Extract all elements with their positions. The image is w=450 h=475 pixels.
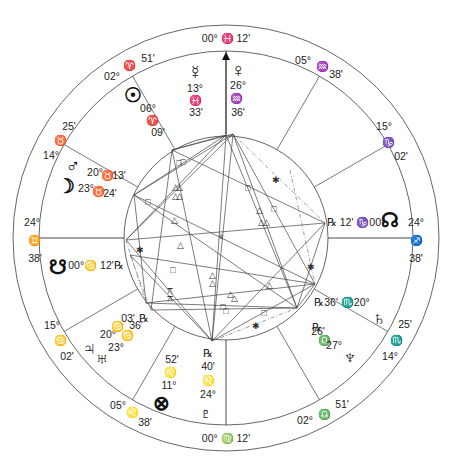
sextile-aspect-icon: ✱	[272, 176, 280, 185]
cusp-label-cusp1-deg: 24°	[408, 217, 424, 228]
square-aspect-icon: □	[245, 184, 250, 193]
trine-aspect-icon: △	[209, 279, 216, 288]
aspect-line	[297, 284, 315, 308]
cusp-label-cusp6-deg: 15°	[44, 320, 60, 331]
cusp-label-cusp11-min: 38'	[329, 69, 343, 80]
square-aspect-icon: □	[145, 198, 150, 207]
cusp-label-mc: 00° ♓ 12'	[202, 33, 250, 44]
square-aspect-icon: □	[180, 158, 185, 167]
mercury-position-label: 13°	[187, 83, 203, 94]
square-aspect-icon: □	[271, 205, 276, 214]
pluto-icon: ♇	[199, 403, 214, 423]
venus-position-label: 36'	[231, 107, 245, 118]
cusp-label-cusp6-min: 02'	[60, 351, 74, 362]
trine-aspect-icon: △	[263, 218, 270, 227]
south-node-icon: ☋	[49, 257, 67, 277]
neptune-position-label: 27°	[326, 340, 342, 351]
cusp-label-cusp3-deg: 02°	[297, 415, 313, 426]
cusp-label-cusp8-deg: 14°	[43, 150, 59, 161]
cusp-label-cusp8-min: 25'	[62, 121, 76, 132]
cusp-label-cusp1-min: 38'	[409, 253, 423, 264]
cusp-label-cusp3-sign: ♎	[318, 409, 331, 420]
venus-position-label: ♒	[230, 93, 243, 104]
center-marker-icon: ♆	[217, 232, 225, 242]
cusp-label-cusp7-min: 38'	[28, 253, 42, 264]
uranus-position-label: 23°	[108, 342, 124, 353]
quincunx-aspect-icon: ⚻	[167, 295, 173, 304]
pluto-position-label: ℞	[203, 348, 213, 359]
part-of-fortune-position-label: ♌	[164, 367, 177, 378]
cusp-label-cusp7-sign: ♊	[28, 235, 41, 246]
sextile-aspect-icon: ✱	[252, 322, 260, 331]
uranus-position-label: ♋	[121, 330, 134, 341]
sun-position-label: 06°	[140, 103, 156, 114]
cusp-label-cusp2-sign: ♏	[390, 335, 403, 346]
cusp-label-cusp11-sign: ♒	[316, 61, 329, 72]
natal-chart-wheel	[0, 0, 450, 475]
sextile-aspect-icon: ✱	[307, 263, 315, 272]
pluto-position-label: ♌	[202, 375, 215, 386]
cusp-label-cusp2-deg: 14°	[382, 351, 398, 362]
cusp-3	[277, 326, 320, 400]
cusp-label-ic: 00° ♍ 12'	[202, 433, 250, 444]
cusp-label-cusp9-sign: ♈	[123, 60, 136, 71]
square-aspect-icon: □	[170, 266, 175, 275]
cusp-label-cusp5-sign: ♌	[126, 407, 139, 418]
pluto-position-label: 24°	[200, 389, 216, 400]
trine-aspect-icon: △	[176, 192, 183, 201]
cusp-label-cusp12-deg: 15°	[376, 121, 392, 132]
pluto-position-label: 40'	[201, 361, 215, 372]
trine-aspect-icon: △	[256, 206, 263, 215]
cusp-label-cusp3-min: 51'	[335, 399, 349, 410]
trine-aspect-icon: △	[266, 281, 273, 290]
mars-position-label: 13'	[112, 170, 126, 181]
cusp-label-cusp8-sign: ♉	[54, 135, 67, 146]
saturn-icon: ♄	[372, 308, 387, 328]
trine-aspect-icon: △	[231, 294, 238, 303]
saturn-position-label: ℞36' ♏20°	[314, 297, 369, 308]
cusp-label-cusp5-deg: 05°	[110, 400, 126, 411]
venus-position-label: 26°	[230, 80, 246, 91]
south-node-position-label: 00°♋ 12'℞	[68, 260, 123, 271]
aspect-line	[126, 223, 325, 240]
cusp-12	[314, 145, 388, 188]
mercury-position-label: ♓	[189, 95, 202, 106]
cusp-label-cusp2-min: 25'	[398, 319, 412, 330]
sextile-aspect-icon: ✱	[136, 246, 144, 255]
mercury-icon: ☿	[188, 62, 203, 82]
cusp-6	[64, 289, 138, 332]
cusp-label-cusp12-min: 02'	[394, 151, 408, 162]
mars-icon: ♂	[66, 155, 81, 175]
cusp-label-cusp5-min: 38'	[138, 417, 152, 428]
cusp-label-cusp12-sign: ♑	[382, 137, 395, 148]
moon-icon: ☽	[57, 176, 75, 196]
trine-aspect-icon: △	[171, 216, 178, 225]
square-aspect-icon: □	[223, 307, 228, 316]
cusp-label-cusp9-deg: 02°	[104, 71, 120, 82]
mercury-position-label: 33'	[189, 107, 203, 118]
part-of-fortune-position-label: 11°	[161, 380, 176, 391]
cusp-label-cusp6-sign: ♋	[54, 335, 67, 346]
trine-aspect-icon: △	[177, 241, 184, 250]
cusp-label-cusp1-sign: ♐	[410, 235, 423, 246]
sun-position-label: 09'	[151, 127, 165, 138]
aspect-line	[172, 134, 233, 150]
cusp-11	[277, 76, 320, 150]
square-aspect-icon: □	[261, 309, 266, 318]
arrow-up-icon	[222, 52, 230, 60]
venus-icon: ♀	[231, 60, 246, 80]
part-of-fortune-icon: ⊗	[153, 393, 170, 413]
cusp-label-cusp11-deg: 05°	[295, 55, 311, 66]
moon-position-label: 24'	[103, 188, 117, 199]
cusp-label-cusp7-deg: 24°	[24, 217, 40, 228]
sun-position-label: ♈	[146, 115, 159, 126]
neptune-icon: ♆	[343, 347, 358, 367]
part-of-fortune-position-label: 52'	[165, 354, 179, 365]
north-node-position-label: ℞ 12' ♑00°	[327, 217, 385, 228]
cusp-label-cusp9-min: 51'	[141, 53, 155, 64]
